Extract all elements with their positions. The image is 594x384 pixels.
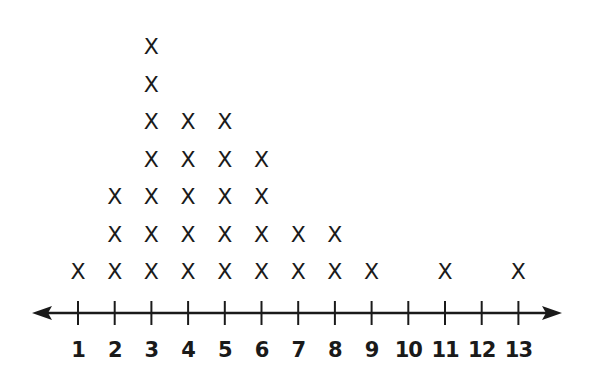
tick-label-1: 1 (63, 338, 93, 362)
tick-label-12: 12 (467, 338, 497, 362)
tick-label-5: 5 (210, 338, 240, 362)
x-mark: X (286, 224, 310, 246)
x-mark: X (176, 111, 200, 133)
tick-label-6: 6 (247, 338, 277, 362)
x-mark: X (139, 186, 163, 208)
number-line (0, 0, 594, 384)
x-mark: X (250, 149, 274, 171)
x-mark: X (66, 261, 90, 283)
x-mark: X (176, 186, 200, 208)
x-mark: X (360, 261, 384, 283)
x-mark: X (213, 186, 237, 208)
x-mark: X (250, 224, 274, 246)
x-mark: X (250, 186, 274, 208)
tick-label-11: 11 (430, 338, 460, 362)
x-mark: X (213, 111, 237, 133)
x-mark: X (176, 149, 200, 171)
tick-label-4: 4 (173, 338, 203, 362)
x-mark: X (323, 261, 347, 283)
tick-label-3: 3 (136, 338, 166, 362)
x-mark: X (213, 149, 237, 171)
x-mark: X (139, 36, 163, 58)
tick-label-2: 2 (100, 338, 130, 362)
x-mark: X (506, 261, 530, 283)
x-mark: X (103, 186, 127, 208)
tick-label-9: 9 (357, 338, 387, 362)
x-mark: X (139, 261, 163, 283)
tick-label-13: 13 (503, 338, 533, 362)
x-mark: X (139, 224, 163, 246)
x-mark: X (286, 261, 310, 283)
dot-plot: XXXXXXXXXXXXXXXXXXXXXXXXXXXXXXXX 1234567… (0, 0, 594, 384)
tick-label-10: 10 (393, 338, 423, 362)
tick-label-7: 7 (283, 338, 313, 362)
x-mark: X (213, 224, 237, 246)
x-mark: X (103, 261, 127, 283)
x-mark: X (176, 261, 200, 283)
x-mark: X (139, 111, 163, 133)
x-mark: X (103, 224, 127, 246)
x-mark: X (213, 261, 237, 283)
x-mark: X (139, 149, 163, 171)
x-mark: X (176, 224, 200, 246)
x-mark: X (250, 261, 274, 283)
x-mark: X (323, 224, 347, 246)
x-mark: X (139, 74, 163, 96)
tick-label-8: 8 (320, 338, 350, 362)
x-mark: X (433, 261, 457, 283)
